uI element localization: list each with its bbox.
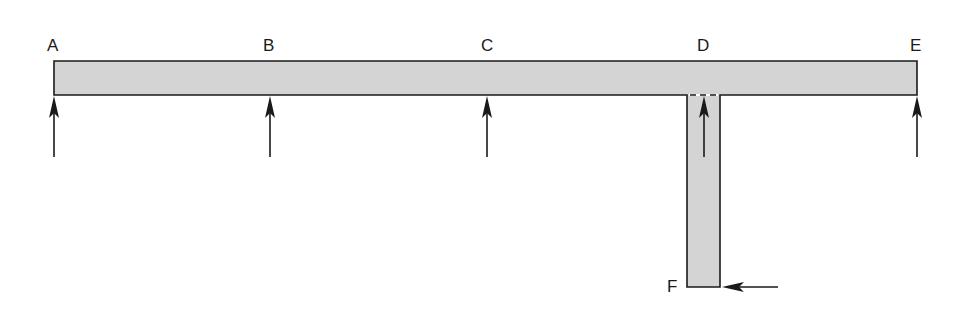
point-label-e: E bbox=[910, 36, 921, 55]
beam-fill bbox=[54, 61, 917, 95]
force-arrows bbox=[49, 96, 922, 292]
point-label-a: A bbox=[47, 36, 59, 55]
point-label-f: F bbox=[667, 277, 677, 296]
force-arrow-b bbox=[265, 96, 275, 157]
point-label-b: B bbox=[263, 36, 274, 55]
frame-diagram: ABCDEF bbox=[0, 0, 968, 313]
force-arrow-c bbox=[482, 96, 492, 157]
frame-outline bbox=[54, 61, 917, 287]
point-label-c: C bbox=[481, 36, 493, 55]
frame-members bbox=[54, 61, 917, 287]
point-label-d: D bbox=[697, 36, 709, 55]
force-arrow-a bbox=[49, 96, 59, 157]
force-arrow-e bbox=[912, 96, 922, 157]
force-arrow-f bbox=[722, 282, 778, 292]
